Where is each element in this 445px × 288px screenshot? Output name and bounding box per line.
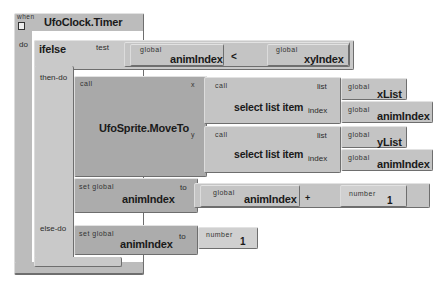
then-do-label: then-do <box>40 73 67 82</box>
to-label: to <box>180 183 187 192</box>
global-prefix: global <box>348 106 370 113</box>
set-global-label: set global <box>79 183 114 190</box>
var-name: xList <box>377 88 402 100</box>
global-prefix: global <box>348 154 370 161</box>
call-label: call <box>215 131 228 138</box>
select-list-item-name: select list item <box>234 101 303 113</box>
list-label: list <box>317 82 327 91</box>
var-name: animIndex <box>170 53 223 65</box>
index-label: index <box>308 154 327 163</box>
y-param-label: y <box>191 131 195 138</box>
var-name: animIndex <box>120 238 173 250</box>
var-name: animIndex <box>377 110 430 122</box>
ifelse-bottom-bar <box>34 257 122 267</box>
var-name: xyIndex <box>304 53 344 65</box>
when-label: when <box>17 13 35 20</box>
test-label: test <box>96 43 109 52</box>
var-name: animIndex <box>244 193 297 205</box>
ifelse-label: ifelse <box>39 43 66 55</box>
else-do-label: else-do <box>40 224 66 233</box>
number-value: 1 <box>387 195 392 206</box>
global-prefix: global <box>276 46 298 53</box>
var-name: yList <box>377 136 402 148</box>
global-prefix: global <box>213 189 235 196</box>
select-list-item-name: select list item <box>234 148 303 160</box>
call-label: call <box>80 80 93 87</box>
global-prefix: global <box>348 131 370 138</box>
collapse-checkbox[interactable] <box>18 22 25 30</box>
x-param-label: x <box>191 81 195 88</box>
do-label: do <box>19 40 28 49</box>
global-prefix: global <box>348 83 370 90</box>
event-name: UfoClock.Timer <box>44 16 122 28</box>
number-value: 1 <box>240 236 245 247</box>
var-name: animIndex <box>377 158 430 170</box>
list-label: list <box>317 131 327 140</box>
set-global-label: set global <box>79 230 114 237</box>
index-label: index <box>308 106 327 115</box>
moveto-name: UfoSprite.MoveTo <box>99 122 189 134</box>
ifelse-spine <box>34 66 74 266</box>
to-label: to <box>179 232 186 241</box>
less-than-operator[interactable]: < <box>231 51 237 62</box>
number-prefix: number <box>349 190 376 197</box>
call-label: call <box>215 82 228 89</box>
global-prefix: global <box>140 46 162 53</box>
var-name: animIndex <box>122 193 175 205</box>
number-prefix: number <box>206 231 233 238</box>
plus-operator[interactable]: + <box>305 193 310 203</box>
